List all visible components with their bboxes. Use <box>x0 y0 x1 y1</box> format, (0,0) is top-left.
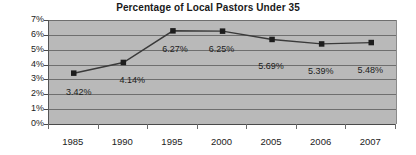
y-axis-tick-label: 7% <box>2 15 44 24</box>
x-axis-tick-label: 1995 <box>150 136 194 147</box>
y-axis-tick-label: 4% <box>2 60 44 69</box>
data-point-marker <box>319 41 325 47</box>
gridlines <box>49 21 396 125</box>
x-axis-tick-mark <box>98 124 99 129</box>
x-axis-tick-mark <box>395 124 396 129</box>
data-point-label: 5.48% <box>357 65 383 75</box>
y-axis-tick-label: 1% <box>2 104 44 113</box>
data-point-marker <box>71 70 77 76</box>
y-axis-tick-label: 3% <box>2 74 44 83</box>
x-axis-tick-mark <box>296 124 297 129</box>
x-axis-tick-label: 2000 <box>200 136 244 147</box>
y-axis-tick-label: 0% <box>2 119 44 128</box>
y-axis-tick-label: 6% <box>2 30 44 39</box>
data-point-label: 5.39% <box>308 66 334 76</box>
data-point-label: 4.14% <box>120 75 146 85</box>
x-axis: 1985199019952000200520062007 <box>48 124 397 155</box>
data-point-marker <box>269 37 275 43</box>
data-point-label: 5.69% <box>258 61 284 71</box>
y-axis: 7%6%5%4%3%2%1%0% <box>0 20 44 124</box>
chart-container: Percentage of Local Pastors Under 35 7%6… <box>0 0 416 155</box>
x-axis-tick-label: 2006 <box>299 136 343 147</box>
x-axis-tick-mark <box>246 124 247 129</box>
data-point-marker <box>170 28 176 33</box>
y-axis-tick-label: 2% <box>2 89 44 98</box>
plot-svg <box>49 20 396 124</box>
x-axis-tick-mark <box>197 124 198 129</box>
x-axis-tick-label: 1985 <box>51 136 95 147</box>
data-point-label: 6.27% <box>162 44 188 54</box>
y-axis-tick-label: 5% <box>2 45 44 54</box>
data-point-marker <box>369 40 375 46</box>
x-axis-tick-mark <box>345 124 346 129</box>
x-axis-tick-mark <box>147 124 148 129</box>
plot-area <box>48 20 397 124</box>
x-axis-tick-label: 2005 <box>249 136 293 147</box>
x-axis-tick-label: 2007 <box>348 136 392 147</box>
x-axis-tick-mark <box>48 124 49 129</box>
data-point-label: 3.42% <box>66 87 92 97</box>
x-axis-tick-label: 1990 <box>100 136 144 147</box>
data-point-marker <box>220 28 226 34</box>
chart-title: Percentage of Local Pastors Under 35 <box>0 2 416 13</box>
data-point-label: 6.25% <box>209 44 235 54</box>
data-point-marker <box>121 60 127 65</box>
